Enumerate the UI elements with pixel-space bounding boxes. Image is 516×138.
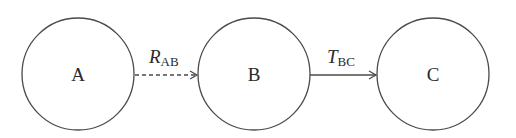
node-b-label: B [248,64,261,85]
node-a-label: A [71,64,85,85]
edge-a-to-b-subscript: AB [161,54,179,69]
node-c-label: C [427,64,440,85]
edge-b-to-c: TBC [310,46,376,75]
edge-b-to-c-subscript: BC [338,54,355,69]
edge-b-to-c-label: TBC [327,46,355,69]
diagram-canvas: A B C RAB TBC [0,0,516,138]
node-b: B [198,18,310,130]
edge-a-to-b: RAB [135,46,197,75]
node-a: A [22,18,134,130]
edge-a-to-b-label: RAB [148,46,179,69]
edge-a-to-b-symbol: R [148,46,161,67]
node-c: C [377,18,489,130]
